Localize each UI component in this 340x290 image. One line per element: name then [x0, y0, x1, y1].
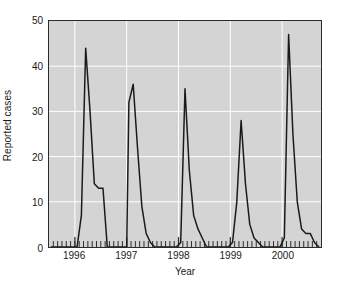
- x-tick-label: 2000: [272, 250, 294, 261]
- y-tick-label: 50: [17, 15, 43, 26]
- y-tick-label: 10: [17, 197, 43, 208]
- x-axis-title-text: Year: [175, 266, 195, 277]
- x-tick-label: 1999: [220, 250, 242, 261]
- y-tick-label: 30: [17, 106, 43, 117]
- y-tick-label: 0: [17, 243, 43, 254]
- y-tick-label: 40: [17, 60, 43, 71]
- x-tick-label: 1998: [167, 250, 189, 261]
- y-axis-tick-labels: 01020304050: [17, 0, 43, 290]
- x-tick-label: 1996: [63, 250, 85, 261]
- y-tick-label: 20: [17, 151, 43, 162]
- x-axis-title: Year: [48, 266, 322, 277]
- minor-tick-marks: [53, 241, 316, 247]
- plot-area: [48, 20, 322, 248]
- chart-figure: Reported cases 01020304050 1996199719981…: [0, 0, 340, 290]
- y-axis-title: Reported cases: [0, 0, 16, 250]
- x-tick-label: 1997: [115, 250, 137, 261]
- y-axis-title-text: Reported cases: [3, 89, 14, 160]
- gridlines: [49, 21, 321, 247]
- x-axis-tick-labels: 19961997199819992000: [48, 250, 322, 266]
- plot-svg: [49, 21, 321, 247]
